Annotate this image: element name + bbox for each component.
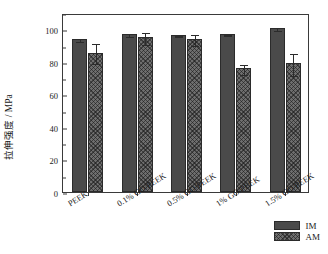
legend-label-am: AM: [305, 232, 320, 242]
error-bar-am: [145, 33, 146, 46]
bar-am: [187, 39, 202, 192]
y-tick-label: 60: [24, 92, 63, 101]
bar-im: [270, 28, 285, 192]
y-axis-label: 拉伸强度 / MPa: [1, 47, 15, 207]
legend-swatch-im: [274, 221, 300, 230]
bar-im: [122, 34, 137, 192]
bar-im: [72, 39, 87, 192]
error-bar-am: [293, 54, 294, 77]
error-bar-im: [228, 35, 229, 38]
y-tick-mark: [63, 194, 67, 195]
error-bar-im: [277, 28, 278, 32]
y-tick-label: 80: [24, 60, 63, 69]
y-tick-label: 100: [24, 27, 63, 36]
error-bar-am: [96, 44, 97, 65]
x-tick-label: PEEK: [66, 189, 89, 209]
error-bar-im: [129, 34, 130, 38]
bar-am: [236, 68, 251, 192]
bar-im: [220, 34, 235, 192]
y-tick-mark: [63, 96, 67, 97]
tensile-strength-bar-chart: 拉伸强度 / MPa 020406080100 PEEK0.1% GO/PEEK…: [0, 0, 328, 254]
y-minor-tick: [63, 112, 66, 113]
legend: IM AM: [274, 220, 320, 242]
y-minor-tick: [63, 145, 66, 146]
y-minor-tick: [63, 177, 66, 178]
legend-label-im: IM: [305, 221, 316, 231]
y-tick-label: 40: [24, 125, 63, 134]
legend-item-im: IM: [274, 220, 320, 231]
y-tick-mark: [63, 31, 67, 32]
plot-area: 020406080100 PEEK0.1% GO/PEEK0.5% GO/PEE…: [62, 14, 309, 193]
y-tick-label: 0: [24, 190, 63, 199]
y-tick-mark: [63, 128, 67, 129]
legend-item-am: AM: [274, 231, 320, 242]
y-tick-mark: [63, 63, 67, 64]
legend-swatch-am: [274, 232, 300, 241]
bar-im: [171, 35, 186, 192]
y-minor-tick: [63, 47, 66, 48]
error-bar-im: [179, 36, 180, 39]
error-bar-im: [80, 39, 81, 42]
y-tick-mark: [63, 161, 67, 162]
bar-am: [286, 63, 301, 192]
y-tick-label: 20: [24, 157, 63, 166]
y-minor-tick: [63, 15, 66, 16]
bar-am: [88, 53, 103, 192]
error-bar-am: [244, 65, 245, 76]
y-minor-tick: [63, 80, 66, 81]
bar-am: [138, 37, 153, 192]
error-bar-am: [195, 35, 196, 46]
